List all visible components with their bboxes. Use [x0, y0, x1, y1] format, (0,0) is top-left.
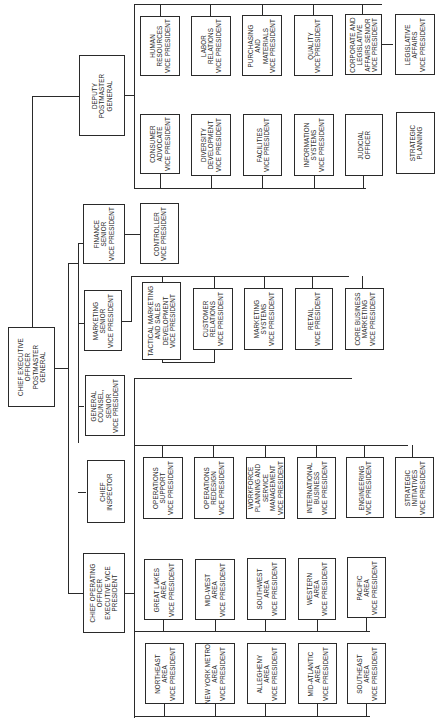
ceo-box: CHIEF EXECUTIVE OFFICER POSTMASTER GENER… [8, 327, 55, 407]
connector [312, 276, 313, 288]
connector [265, 620, 266, 631]
connector [122, 321, 131, 322]
southwest-area-box: SOUTHWEST AREA VICE PRESIDENT [247, 558, 286, 620]
corporate-legislative-box: CORPORATE AND LEGISLATIVE AFFAIRS SENIOR… [345, 14, 382, 75]
connector [134, 631, 370, 632]
strategic-planning-box: STRATEGIC PLANNING [396, 112, 435, 174]
strategic-initiatives-box: STRATEGIC INITIATIVES VICE PRESIDENT [395, 457, 434, 518]
connector [134, 445, 408, 446]
core-business-marketing-box: CORE BUSINESS MARKETING VICE PRESIDENT [345, 288, 384, 350]
finance-box: FINANCE SENIOR VICE PRESIDENT [83, 204, 125, 264]
ceo-label: CHIEF EXECUTIVE OFFICER POSTMASTER GENER… [17, 338, 47, 396]
mid-atlantic-area-box: MID-ATLANTIC AREA VICE PRESIDENT [298, 643, 337, 704]
connector [68, 492, 69, 594]
connector [131, 276, 132, 322]
deputy-postmaster-box: DEPUTY POSTMASTER GENERAL [79, 55, 125, 136]
information-systems-box: INFORMATION SYSTEMS VICE PRESIDENT [294, 114, 334, 176]
connector [125, 234, 140, 235]
connector [215, 620, 216, 631]
western-area-box: WESTERN AREA VICE PRESIDENT [298, 558, 336, 620]
marketing-systems-box: MARKETING SYSTEMS VICE PRESIDENT [244, 288, 283, 350]
connector [163, 620, 164, 631]
connector [213, 445, 214, 457]
connector [214, 350, 215, 363]
mid-west-area-box: MID-WEST AREA VICE PRESIDENT [195, 559, 235, 620]
connector [366, 704, 367, 716]
connector [363, 176, 364, 188]
connector [262, 176, 263, 188]
connector [160, 174, 161, 188]
international-business-box: INTERNATIONAL BUSINESS VICE PRESIDENT [297, 457, 336, 519]
connector [78, 492, 86, 493]
purchasing-box: PURCHASING AND MATERIALS VICE PRESIDENT [242, 15, 282, 76]
connector [265, 704, 266, 716]
customer-relations-box: CUSTOMER RELATIONS VICE PRESIDENT [193, 288, 233, 350]
consumer-advocate-box: CONSUMER ADVOCATE VICE PRESIDENT [140, 114, 180, 174]
connector [134, 4, 382, 5]
pacific-area-box: PACIFIC AREA VICE PRESIDENT [347, 557, 386, 618]
connector [162, 360, 163, 363]
operations-redesign-box: OPERATIONS REDESIGN VICE PRESIDENT [194, 457, 234, 519]
operations-support-box: OPERATIONS SUPPORT VICE PRESIDENT [143, 457, 183, 519]
connector [210, 4, 211, 16]
diversity-development-box: DIVERSITY DEVELOPMENT VICE PRESIDENT [191, 114, 231, 176]
connector [381, 44, 393, 45]
connector [364, 445, 365, 457]
connector [362, 276, 363, 288]
connector [131, 276, 349, 277]
connector [125, 593, 134, 594]
connector [134, 378, 352, 379]
connector [164, 704, 165, 716]
southeast-area-box: SOUTHEAST AREA VICE PRESIDENT [347, 643, 386, 704]
connector [366, 618, 367, 631]
connector [134, 188, 366, 189]
facilities-box: FACILITIES VICE PRESIDENT [243, 114, 282, 176]
tactical-marketing-box: TACTICAL MARKETING AND SALES DEVELOPMENT… [142, 282, 181, 360]
connector [134, 378, 135, 718]
controller-box: CONTROLLER VICE PRESIDENT [140, 203, 179, 264]
chief-inspector-box: CHIEF INSPECTOR [87, 460, 125, 523]
connector [134, 716, 370, 717]
labor-relations-box: LABOR RELATIONS VICE PRESIDENT [191, 16, 231, 76]
great-lakes-area-box: GREAT LAKES AREA VICE PRESIDENT [144, 559, 183, 620]
org-chart: CHIEF EXECUTIVE OFFICER POSTMASTER GENER… [0, 0, 441, 718]
coo-box: CHIEF OPERATING OFFICER EXECUTIVE VICE P… [83, 553, 125, 633]
allegheny-area-box: ALLEGHENY AREA VICE PRESIDENT [247, 643, 286, 704]
connector [134, 4, 135, 189]
connector [68, 263, 78, 264]
human-resources-box: HUMAN RESOURCES VICE PRESIDENT [140, 16, 180, 76]
general-counsel-box: GENERAL COUNSEL, SENIOR VICE PRESIDENT [85, 375, 125, 436]
connector [215, 704, 216, 716]
connector [265, 445, 266, 457]
quality-box: QUALITY VICE PRESIDENT [294, 15, 333, 76]
engineering-box: ENGINEERING VICE PRESIDENT [346, 457, 384, 518]
workforce-planning-box: WORKFORCE PLANNING AND SERVICE MANAGEMEN… [246, 457, 285, 519]
connector [32, 96, 80, 97]
northeast-area-box: NORTHEAST AREA VICE PRESIDENT [145, 643, 184, 704]
connector [125, 95, 134, 96]
connector [68, 593, 83, 594]
connector [78, 243, 79, 443]
retail-box: RETAIL VICE PRESIDENT [295, 288, 333, 350]
new-york-metro-area-box: NEW YORK METRO AREA VICE PRESIDENT [195, 643, 235, 704]
connector [317, 620, 318, 631]
connector [317, 704, 318, 716]
connector [78, 406, 84, 407]
connector [264, 276, 265, 288]
connector [162, 445, 163, 457]
connector [211, 176, 212, 188]
connector [214, 276, 215, 288]
connector [314, 176, 315, 188]
connector [162, 362, 214, 363]
marketing-box: MARKETING SENIOR VICE PRESIDENT [84, 290, 122, 351]
connector [316, 445, 317, 457]
legislative-affairs-box: LEGISLATIVE AFFAIRS VICE PRESIDENT [395, 14, 435, 75]
judicial-officer-box: JUDICIAL OFFICER [345, 114, 383, 176]
connector [55, 368, 68, 369]
connector [412, 445, 413, 457]
connector [160, 4, 161, 16]
